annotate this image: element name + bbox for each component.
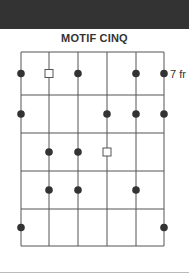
note-dot: [103, 110, 111, 118]
note-markers: [17, 70, 168, 232]
note-dot: [132, 110, 140, 118]
note-dot: [160, 224, 168, 232]
note-dot: [74, 186, 82, 194]
note-dot: [17, 224, 25, 232]
fretboard-diagram: 7 fr: [0, 0, 189, 273]
root-square-marker: [103, 148, 111, 156]
note-dot: [17, 70, 25, 78]
root-square-marker: [45, 70, 53, 78]
fret-grid: [21, 52, 164, 246]
note-dot: [132, 70, 140, 78]
note-dot: [74, 148, 82, 156]
note-dot: [160, 110, 168, 118]
fret-position-label: 7 fr: [170, 68, 186, 80]
note-dot: [74, 70, 82, 78]
note-dot: [132, 186, 140, 194]
note-dot: [17, 110, 25, 118]
note-dot: [160, 70, 168, 78]
note-dot: [45, 186, 53, 194]
note-dot: [45, 148, 53, 156]
